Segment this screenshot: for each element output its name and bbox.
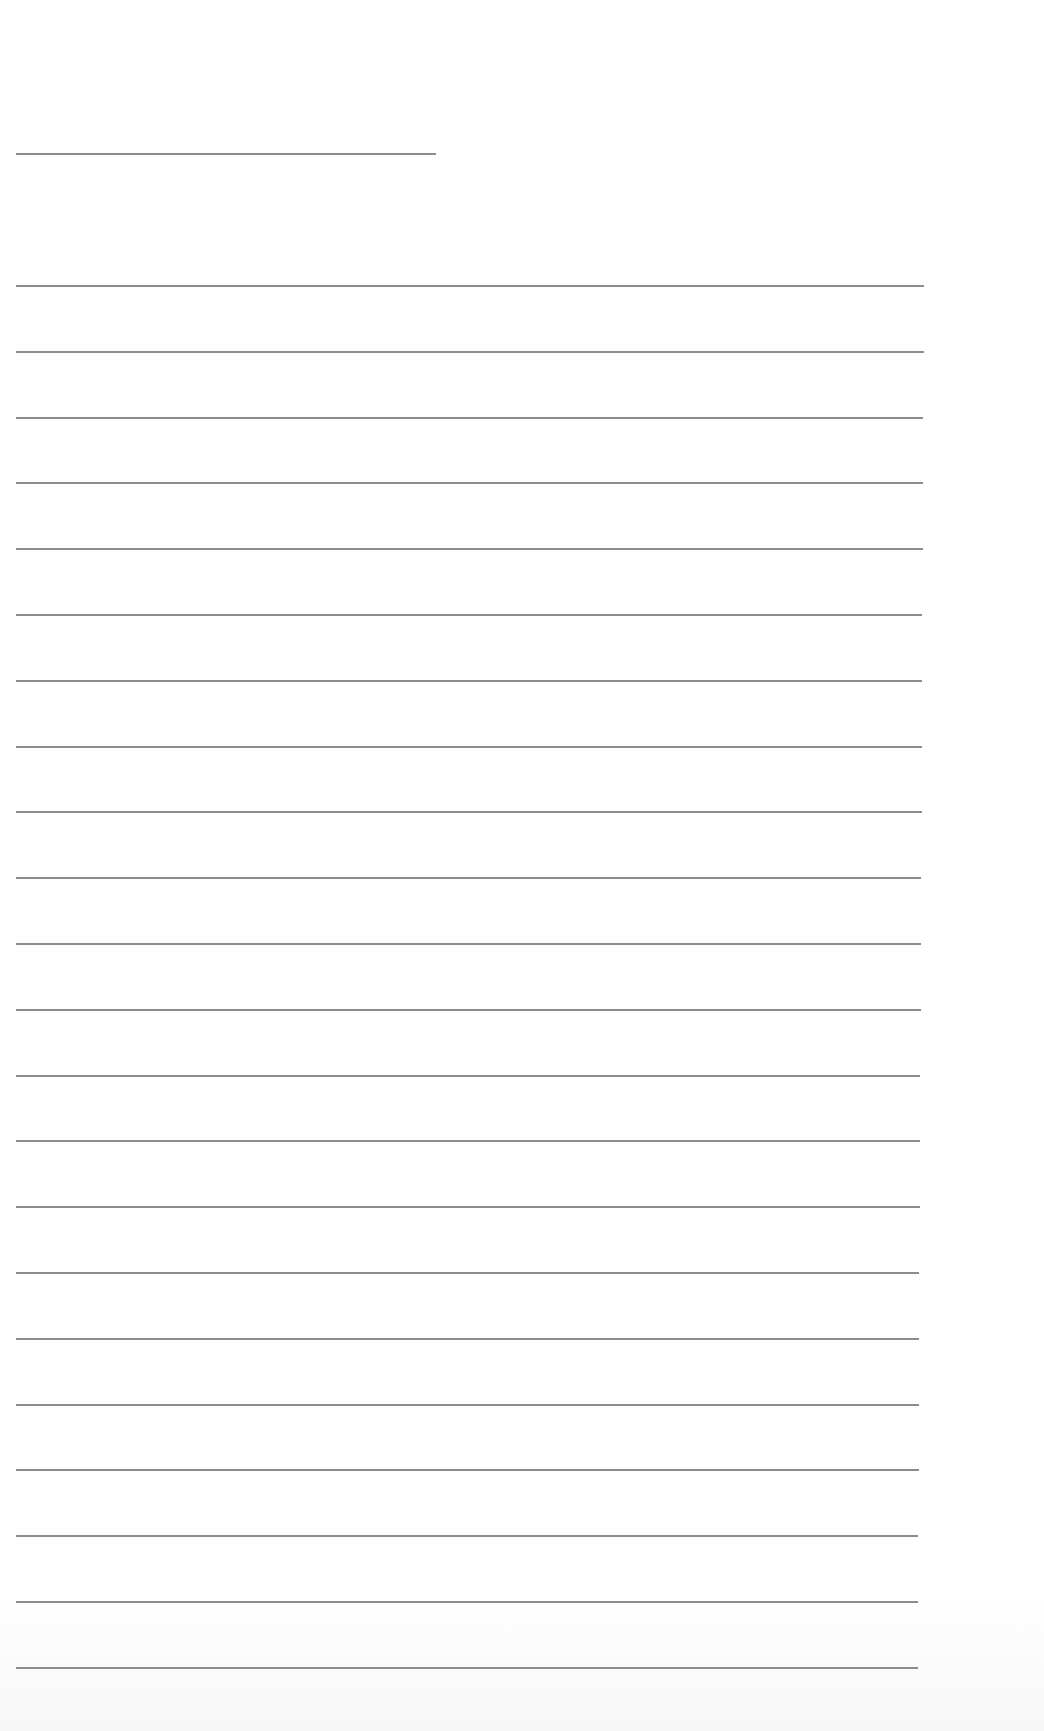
ruled-line[interactable] (16, 943, 921, 945)
ruled-line[interactable] (16, 1206, 920, 1208)
ruled-line[interactable] (16, 811, 922, 813)
ruled-line[interactable] (16, 482, 923, 484)
ruled-line[interactable] (16, 1140, 920, 1142)
ruled-line[interactable] (16, 1404, 919, 1406)
ruled-line[interactable] (16, 877, 921, 879)
title-underline[interactable] (16, 153, 436, 155)
ruled-line[interactable] (16, 680, 922, 682)
ruled-paper-page (0, 0, 1044, 1731)
ruled-line[interactable] (16, 746, 922, 748)
ruled-line[interactable] (16, 1535, 918, 1537)
ruled-line[interactable] (16, 548, 923, 550)
ruled-line[interactable] (16, 285, 924, 287)
ruled-line[interactable] (16, 1272, 919, 1274)
ruled-line[interactable] (16, 1075, 920, 1077)
ruled-line[interactable] (16, 417, 923, 419)
ruled-line[interactable] (16, 1009, 921, 1011)
ruled-line[interactable] (16, 351, 924, 353)
ruled-line[interactable] (16, 1338, 919, 1340)
ruled-line[interactable] (16, 1469, 919, 1471)
ruled-line[interactable] (16, 1601, 918, 1603)
ruled-line[interactable] (16, 1667, 918, 1669)
ruled-line[interactable] (16, 614, 922, 616)
